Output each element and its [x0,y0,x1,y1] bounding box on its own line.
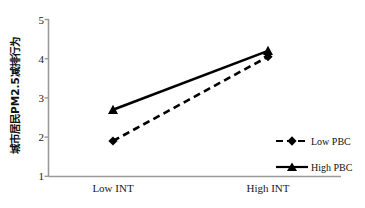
legend-item-high-pbc[interactable]: High PBC [276,154,364,180]
series-line-high-pbc [113,51,268,110]
legend-key-high-pbc [276,160,308,174]
series-line-low-pbc [113,57,268,141]
diamond-marker-icon [287,136,296,146]
legend-label-low-pbc: Low PBC [308,136,351,147]
legend-item-low-pbc[interactable]: Low PBC [276,128,364,154]
series-layer [108,46,273,146]
legend-swatch-solid-triangle [276,160,308,174]
triangle-marker-icon [263,46,273,55]
chart-figure: 城市居民PM2.5减排行为 5 4 3 2 1 Low INT High INT [0,0,365,208]
chart-legend: Low PBC High PBC [276,128,364,180]
legend-swatch-dashed-diamond [276,134,308,148]
legend-label-high-pbc: High PBC [308,162,352,173]
legend-key-low-pbc [276,134,308,148]
